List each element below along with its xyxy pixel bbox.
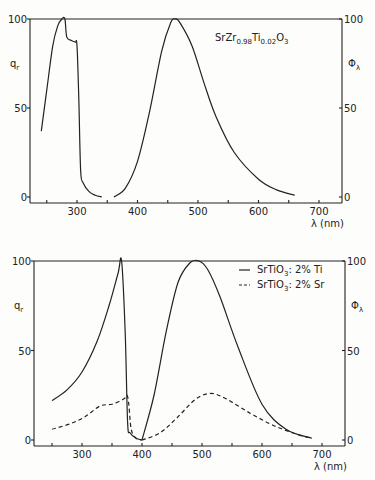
legend-entry: SrTiO3: 2% Sr	[257, 279, 325, 293]
x-label: λ (nm)	[311, 218, 344, 229]
y-tick-label-right: 0	[344, 192, 350, 203]
x-tick-label: 700	[309, 206, 328, 217]
x-tick-label: 500	[188, 206, 207, 217]
x-tick-label: 300	[67, 206, 86, 217]
y-tick-label-right: 100	[347, 256, 366, 267]
series-line	[41, 17, 102, 197]
y-tick-label-right: 50	[347, 346, 360, 357]
y-tick-label-left: 100	[12, 256, 31, 267]
y-tick-label-left: 100	[8, 14, 27, 25]
y-tick-label-right: 50	[344, 103, 357, 114]
x-tick-label: 600	[252, 449, 271, 460]
y-tick-label-right: 0	[347, 435, 353, 446]
legend-entry: SrTiO3: 2% Ti	[257, 264, 323, 278]
y-label-right: Φλ	[348, 58, 360, 72]
y-tick-label-right: 100	[344, 14, 363, 25]
x-tick-label: 300	[72, 449, 91, 460]
y-tick-label-left: 50	[18, 346, 31, 357]
chart-top: 300400500600700005050100100qrΦλλ (nm)SrZ…	[8, 14, 363, 229]
x-tick-label: 600	[249, 206, 268, 217]
y-tick-label-left: 0	[21, 192, 27, 203]
series-line	[52, 258, 142, 440]
x-tick-label: 400	[128, 206, 147, 217]
y-tick-label-left: 50	[14, 103, 27, 114]
series-line	[142, 393, 312, 440]
figure-canvas: 300400500600700005050100100qrΦλλ (nm)SrZ…	[0, 0, 375, 480]
y-tick-label-left: 0	[25, 435, 31, 446]
y-label-right: Φλ	[351, 300, 363, 314]
y-label-left: qr	[10, 58, 19, 72]
x-tick-label: 700	[312, 449, 331, 460]
x-tick-label: 500	[192, 449, 211, 460]
x-tick-label: 400	[132, 449, 151, 460]
compound-annotation: SrZr0.98Ti0.02O3	[215, 32, 289, 46]
y-label-left: qr	[14, 300, 23, 314]
chart-bottom: 300400500600700005050100100qrΦλλ (nm)SrT…	[12, 256, 366, 472]
x-label: λ (nm)	[314, 461, 347, 472]
